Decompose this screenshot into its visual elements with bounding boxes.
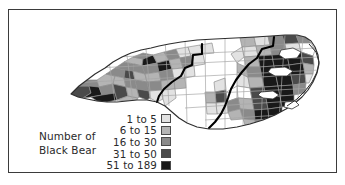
county-shaded (289, 63, 305, 75)
county-shaded (240, 37, 256, 47)
county-shaded (252, 98, 268, 110)
legend-class-list: 1 to 5 6 to 15 16 to 30 31 to 50 51 to 1… (105, 113, 171, 171)
county-shaded (246, 67, 262, 77)
legend-item[interactable]: 6 to 15 (105, 125, 171, 137)
legend-item-label: 51 to 189 (106, 159, 157, 171)
legend-item-label: 1 to 5 (126, 113, 157, 125)
legend-item[interactable]: 1 to 5 (105, 113, 171, 125)
county-shaded (206, 103, 217, 114)
legend-item-label: 6 to 15 (120, 124, 157, 136)
county-shaded (258, 55, 274, 67)
legend-swatch-6-to-15 (161, 126, 171, 135)
county-shaded (243, 119, 256, 128)
county-shaded (276, 75, 293, 86)
county-shaded (262, 76, 278, 87)
county-shaded (145, 72, 161, 82)
legend-swatch-31-to-50 (161, 149, 171, 158)
legend-title-line-1: Number of (39, 130, 111, 144)
county-shaded (303, 63, 314, 74)
legend-item[interactable]: 31 to 50 (105, 148, 171, 160)
legend-item-label: 31 to 50 (113, 148, 157, 160)
legend-item[interactable]: 51 to 189 (105, 159, 171, 171)
map-legend: Number of Black Bear 1 to 5 6 to 15 16 t… (39, 112, 174, 182)
county-shaded (248, 77, 264, 88)
figure-canvas: Number of Black Bear 1 to 5 6 to 15 16 t… (0, 0, 345, 185)
map-frame: Number of Black Bear 1 to 5 6 to 15 16 t… (8, 9, 337, 173)
legend-swatch-51-to-189 (161, 161, 171, 170)
legend-item-label: 16 to 30 (113, 136, 157, 148)
legend-title-line-2: Black Bear (39, 144, 111, 158)
legend-swatch-16-to-30 (161, 137, 171, 146)
legend-title: Number of Black Bear (39, 130, 111, 157)
county-shaded (254, 36, 270, 46)
legend-item[interactable]: 16 to 30 (105, 136, 171, 148)
county-shaded (278, 85, 294, 96)
legend-swatch-1-to-5 (161, 114, 171, 123)
